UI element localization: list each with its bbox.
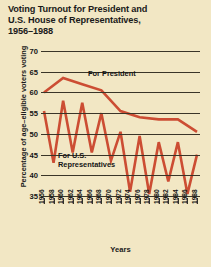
x-axis-tick-label: 1986: [181, 189, 188, 204]
x-axis-tick-label: 1958: [47, 189, 54, 204]
gridline: [41, 92, 200, 93]
annotation-house: For U.S. Representatives: [58, 152, 115, 169]
x-axis-tick-label: 1966: [85, 189, 92, 204]
y-axis-tick-label: 50: [16, 129, 38, 138]
gridline: [41, 51, 200, 52]
x-axis-title: Years: [41, 245, 200, 254]
chart-title-line-1: Voting Turnout for President and: [8, 4, 204, 15]
gridline: [41, 175, 200, 176]
x-axis-tick-label: 1974: [124, 189, 131, 204]
y-axis-tick-label: 35: [16, 192, 38, 201]
x-axis-tick-label: 1988: [191, 189, 198, 204]
y-axis-tick-label: 55: [16, 109, 38, 118]
gridline: [41, 134, 200, 135]
x-axis-tick-label: 1960: [57, 189, 64, 204]
x-axis-tick-label: 1976: [133, 189, 140, 204]
series-house: [44, 101, 197, 194]
x-axis-tick-label: 1982: [162, 189, 169, 204]
y-axis-tick-labels: 7065605550454035: [0, 51, 38, 196]
x-axis-tick-label: 1968: [95, 189, 102, 204]
gridline: [41, 113, 200, 114]
x-axis-tick-label: 1962: [66, 189, 73, 204]
chart-title-line-3: 1956–1988: [8, 26, 204, 37]
annotation-house-line-2: Representatives: [58, 161, 115, 170]
x-axis-tick-label: 1956: [38, 189, 45, 204]
x-axis-tick-label: 1978: [143, 189, 150, 204]
x-axis-tick-label: 1964: [76, 189, 83, 204]
chart-title-line-2: U.S. House of Representatives,: [8, 15, 204, 26]
y-axis-tick-label: 45: [16, 150, 38, 159]
x-axis-tick-label: 1984: [171, 189, 178, 204]
x-axis-tick-label: 1980: [152, 189, 159, 204]
x-axis-tick-label: 1972: [114, 189, 121, 204]
y-axis-tick-label: 65: [16, 67, 38, 76]
y-axis-tick-label: 70: [16, 47, 38, 56]
y-axis-tick-label: 60: [16, 88, 38, 97]
annotation-president: For President: [88, 70, 136, 79]
x-axis-tick-labels: 1956195819601962196419661968197019721974…: [41, 204, 200, 238]
chart-container: Voting Turnout for President and U.S. Ho…: [0, 0, 211, 267]
y-axis-tick-label: 40: [16, 171, 38, 180]
x-axis-tick-label: 1970: [104, 189, 111, 204]
chart-title: Voting Turnout for President and U.S. Ho…: [8, 4, 204, 38]
